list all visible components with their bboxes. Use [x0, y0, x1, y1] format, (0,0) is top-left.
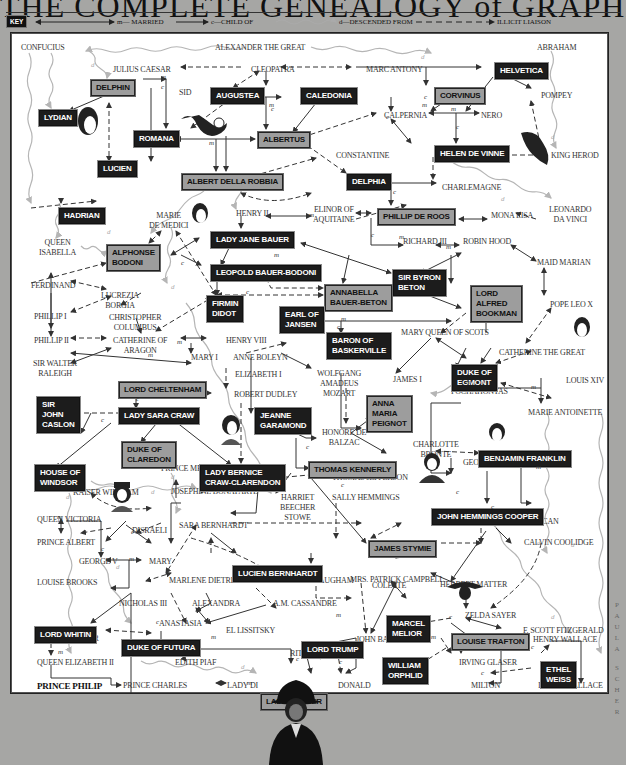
connector-line	[106, 630, 151, 633]
person-disraeli: DISRAELI	[132, 526, 167, 536]
connector-line	[81, 528, 111, 533]
person-catherine-great: CATHERINE THE GREAT	[499, 348, 585, 358]
person-queen-isabella: QUEEN ISABELLA	[39, 238, 76, 258]
married-mark: m	[148, 351, 153, 359]
designer-box-jeanne: JEANNE GARAMOND	[255, 408, 311, 434]
person-king-herod: KING HEROD	[551, 151, 599, 161]
child-of-mark: c	[246, 288, 249, 296]
child-of-mark: c	[491, 503, 494, 511]
designer-box-alphonse: ALPHONSE BODONI	[107, 245, 160, 271]
person-louis14: LOUIS XIV	[566, 376, 604, 386]
descended-mark: d	[551, 613, 555, 621]
designer-box-augustea: AUGUSTEA	[211, 88, 264, 104]
designer-box-lord-cheltenham: LORD CHELTENHAM	[119, 382, 206, 398]
person-alexandra: ALEXANDRA	[192, 599, 240, 609]
person-pompey: POMPEY	[541, 91, 572, 101]
designer-box-louise-trafton: LOUISE TRAFTON	[452, 634, 529, 650]
person-lady-di: LADY DI	[227, 681, 258, 691]
child-of-mark: c	[156, 618, 159, 626]
connector-line	[293, 103, 316, 132]
designer-box-lady-jane: LADY JANE BAUER	[211, 232, 294, 248]
person-george5: GEORGE V	[79, 557, 117, 567]
designer-box-ethel: ETHEL WEISS	[541, 662, 576, 688]
designer-box-caledonia: CALEDONIA	[301, 88, 357, 104]
designer-box-duke-futura: DUKE OF FUTURA	[122, 640, 200, 656]
person-phillip1: PHILLIP I	[34, 312, 66, 322]
person-marie-medici: MARIE DE MEDICI	[149, 211, 188, 231]
person-queen-victoria: QUEEN VICTORIA	[37, 515, 101, 525]
child-of-mark: c	[136, 395, 139, 403]
portrait-icon	[73, 103, 103, 143]
designer-photo	[265, 672, 327, 765]
connector-line	[396, 338, 431, 373]
person-zelda: ZELDA SAYER	[465, 611, 516, 621]
descent-line	[81, 246, 107, 252]
descent-line	[101, 563, 131, 623]
portrait-icon	[417, 451, 447, 483]
portrait-icon	[189, 201, 211, 229]
descended-mark: d	[501, 195, 505, 203]
married-mark: m	[336, 611, 341, 619]
person-alexander: ALEXANDER THE GREAT	[215, 43, 305, 53]
connector-line	[541, 645, 549, 653]
connector-line	[511, 245, 536, 261]
legend-illicit-liaison: ILLICIT LIAISON	[497, 18, 551, 26]
child-of-mark: c	[161, 83, 164, 91]
child-of-mark: c	[296, 655, 299, 663]
connector-line	[391, 119, 411, 143]
genealogy-panel: CONFUCIUSALEXANDER THE GREATABRAHAMJULIU…	[10, 32, 609, 694]
person-confucius: CONFUCIUS	[21, 43, 65, 53]
designer-box-phillip-roos: PHILLIP DE ROOS	[378, 209, 455, 225]
credit-letter: U	[612, 622, 622, 633]
figure-icon	[516, 128, 556, 166]
person-catherine-aragon: CATHERINE OF ARAGON	[113, 336, 167, 356]
person-elizabeth1: ELIZABETH I	[235, 370, 281, 380]
child-of-mark: c	[181, 259, 184, 267]
person-henry2: HENRY II	[236, 209, 269, 219]
connector-line	[146, 573, 171, 581]
person-marie-antoinette: MARIE ANTOINETTE	[528, 408, 602, 418]
person-columbus: CHRISTOPHER COLUMBUS	[109, 313, 161, 333]
legend-descended-from: d—DESCENDED FROM	[339, 18, 413, 26]
child-of-mark: c	[456, 123, 459, 131]
child-of-mark: c	[424, 93, 427, 101]
child-of-mark: c	[337, 323, 340, 331]
person-henry8: HENRY VIII	[226, 336, 266, 346]
credit-letter: L	[612, 633, 622, 644]
person-cassandre: A.M. CASSANDRE	[273, 599, 337, 609]
designer-box-leopold: LEOPOLD BAUER-BODONI	[211, 265, 321, 281]
descended-mark: d	[241, 663, 245, 671]
person-balzac: HONORE DE BALZAC	[322, 428, 366, 448]
connector-line	[491, 543, 541, 608]
child-of-mark: c	[456, 488, 459, 496]
connector-line	[343, 255, 349, 283]
person-mary1: MARY I	[191, 353, 218, 363]
person-prince-charles: PRINCE CHARLES	[123, 681, 187, 691]
child-of-mark: c	[393, 188, 396, 196]
person-calvin: CALVIN COOLIDGE	[524, 538, 593, 548]
connector-line	[361, 583, 366, 633]
person-robin: ROBIN HOOD	[463, 237, 511, 247]
designer-box-albert-della: ALBERT DELLA ROBBIA	[182, 174, 283, 190]
connector-line	[371, 523, 401, 538]
person-constantine: CONSTANTINE	[336, 151, 389, 161]
designer-box-benjamin: BENJAMIN FRANKLIN	[479, 451, 571, 467]
married-mark: m	[58, 648, 63, 656]
connector-line	[211, 533, 236, 553]
designer-box-lord-whitin: LORD WHITIN	[35, 627, 96, 643]
married-mark: m	[57, 513, 62, 521]
person-harriet: HARRIET BEECHER STOWE	[280, 493, 315, 523]
descent-line	[27, 53, 32, 203]
credit-letter: E	[612, 696, 622, 707]
designer-box-house-windsor: HOUSE OF WINDSOR	[35, 465, 85, 491]
child-of-mark: c	[271, 105, 274, 113]
person-charlemagne: CHARLEMAGNE	[442, 183, 501, 193]
connector-line	[496, 528, 511, 543]
designer-box-thomas-kennerly: THOMAS KENNERLY	[309, 462, 396, 478]
child-of-mark: c	[341, 481, 344, 489]
descended-mark: d	[66, 493, 70, 501]
descended-mark: d	[571, 541, 575, 549]
key-badge: KEY	[7, 16, 26, 27]
person-marc: MARC ANTONY	[366, 65, 423, 75]
connector-line	[156, 298, 211, 331]
